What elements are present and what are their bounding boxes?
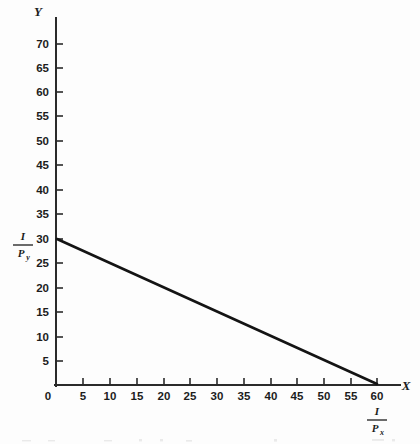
x-axis-label: X [401,378,411,393]
x-tick-label-0: 0 [45,390,51,402]
x-intercept-subscript: x [379,428,384,437]
x-tick-label-5: 5 [80,390,87,402]
budget-constraint-chart: Y X 70 65 60 55 50 45 40 35 [0,0,420,444]
x-tick-label-45: 45 [291,390,304,402]
y-tick-label-60: 60 [36,86,49,98]
chart-background [0,0,420,444]
chart-figure: Y X 70 65 60 55 50 45 40 35 [0,0,420,444]
y-intercept-numerator: I [20,230,26,242]
x-tick-label-30: 30 [211,390,224,402]
y-tick-label-55: 55 [36,110,49,122]
y-tick-label-65: 65 [36,62,49,74]
x-intercept-denominator: P [372,422,379,434]
y-intercept-subscript: y [25,253,30,262]
y-axis-label: Y [34,4,43,19]
x-tick-label-60: 60 [371,390,384,402]
y-tick-label-20: 20 [36,282,49,294]
y-intercept-denominator: P [18,247,25,259]
x-tick-label-25: 25 [184,390,197,402]
y-tick-label-10: 10 [36,331,49,343]
y-tick-label-5: 5 [43,355,50,367]
x-tick-label-10: 10 [104,390,117,402]
y-tick-label-35: 35 [36,208,49,220]
x-intercept-numerator: I [374,405,380,417]
y-tick-label-50: 50 [36,135,49,147]
y-tick-label-15: 15 [36,306,49,318]
y-tick-label-45: 45 [36,159,49,171]
y-tick-label-25: 25 [36,257,49,269]
x-tick-label-40: 40 [265,390,278,402]
y-tick-label-40: 40 [36,184,49,196]
x-tick-label-50: 50 [318,390,331,402]
x-tick-label-20: 20 [158,390,171,402]
x-tick-label-15: 15 [131,390,144,402]
x-tick-label-35: 35 [238,390,251,402]
x-tick-label-55: 55 [345,390,358,402]
y-tick-label-70: 70 [36,38,49,50]
y-tick-label-30: 30 [36,233,49,245]
